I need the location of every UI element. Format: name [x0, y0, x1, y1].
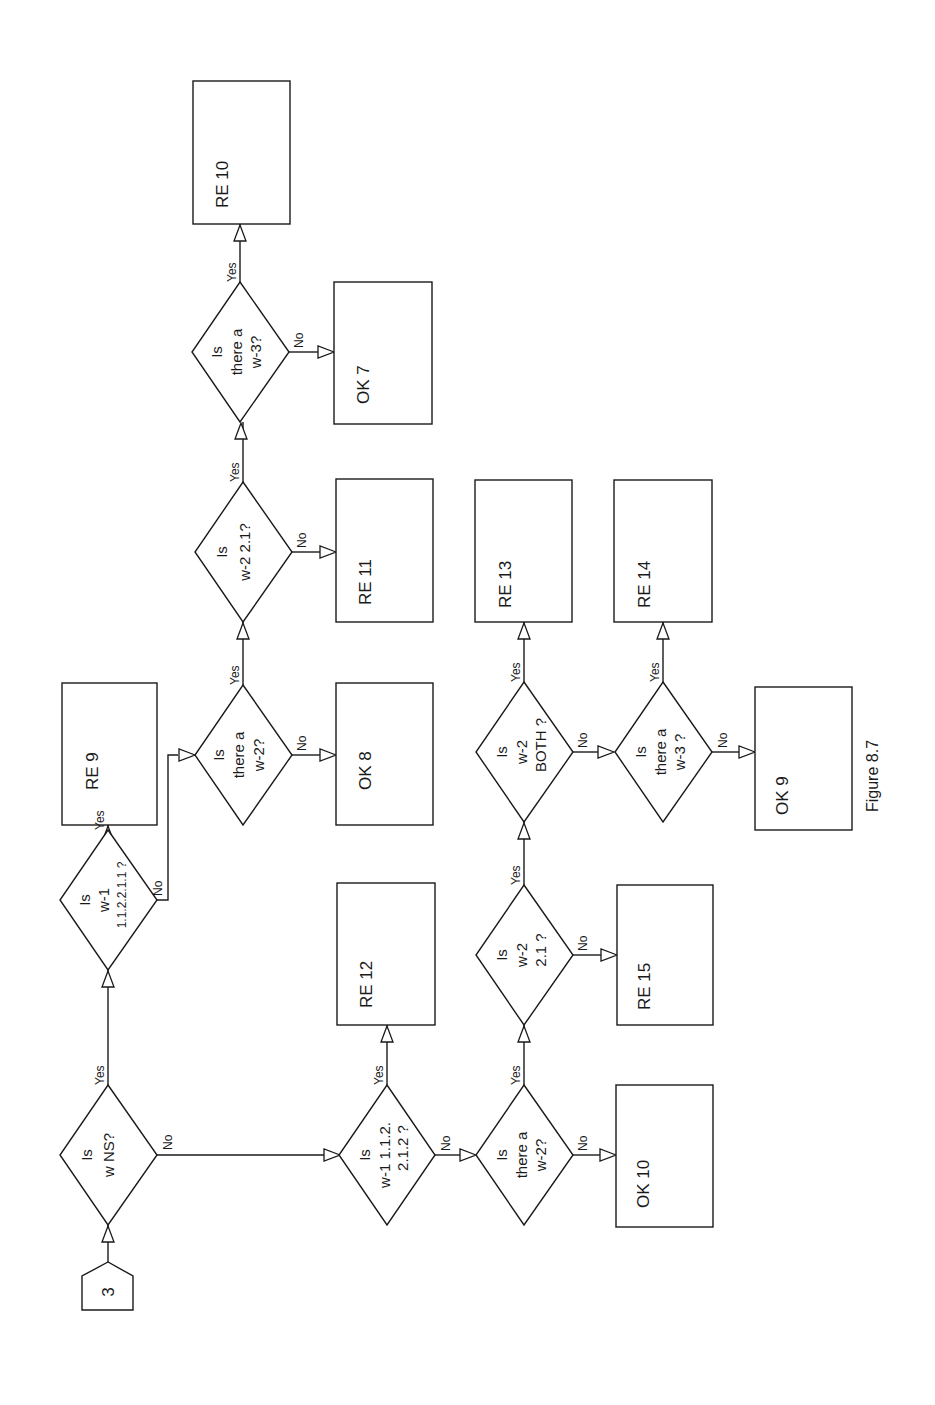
decision-there-a-w2-bottom: Is there a w-2?	[476, 1085, 573, 1225]
no-label: No	[576, 732, 590, 748]
svg-text:Is: Is	[76, 894, 93, 906]
svg-text:OK 9: OK 9	[773, 776, 792, 815]
svg-text:w-1 1.1.2.: w-1 1.1.2.	[376, 1122, 393, 1189]
svg-text:1.1.2.2.1.1 ?: 1.1.2.2.1.1 ?	[115, 861, 129, 928]
svg-text:OK 10: OK 10	[634, 1160, 653, 1208]
yes-label: Yes	[509, 662, 523, 682]
svg-text:2.1 ?: 2.1 ?	[532, 933, 549, 966]
svg-text:RE 14: RE 14	[635, 561, 654, 608]
svg-text:Is: Is	[213, 546, 230, 558]
svg-text:2.1.2 ?: 2.1.2 ?	[394, 1125, 411, 1171]
decision-w2-21-bottom: Is w-2 2.1 ?	[476, 885, 573, 1025]
svg-text:OK 7: OK 7	[354, 365, 373, 404]
flowchart: 3 Is w NS? Is w-1 1.1.2.2.1.1 ? Is there…	[0, 0, 935, 1405]
outcome-re-10: RE 10	[193, 81, 290, 224]
svg-text:there a: there a	[228, 328, 245, 375]
no-label: No	[295, 735, 309, 751]
yes-label: Yes	[225, 262, 239, 282]
yes-label: Yes	[648, 662, 662, 682]
outcome-re-11: RE 11	[336, 479, 433, 622]
decision-w-ns: Is w NS?	[60, 1085, 157, 1225]
svg-text:there a: there a	[513, 1131, 530, 1178]
yes-label: Yes	[93, 1065, 107, 1085]
svg-text:Is: Is	[210, 749, 227, 761]
svg-text:w-2?: w-2?	[250, 739, 267, 773]
outcome-re-14: RE 14	[614, 480, 712, 622]
svg-text:RE 15: RE 15	[635, 963, 654, 1010]
yes-label: Yes	[93, 810, 107, 830]
svg-text:w-2: w-2	[513, 943, 530, 968]
outcome-ok-7: OK 7	[334, 282, 432, 424]
svg-text:w-3?: w-3?	[247, 336, 264, 370]
svg-text:Is: Is	[356, 1149, 373, 1161]
decision-w2-both: Is w-2 BOTH ?	[476, 682, 573, 822]
decision-there-a-w3-top: Is there a w-3?	[192, 282, 289, 422]
svg-text:Is: Is	[78, 1149, 95, 1161]
no-label: No	[576, 1135, 590, 1151]
svg-text:Is: Is	[493, 949, 510, 961]
svg-text:w-3 ?: w-3 ?	[671, 734, 688, 772]
svg-text:RE 11: RE 11	[356, 559, 375, 605]
svg-text:BOTH ?: BOTH ?	[532, 718, 549, 772]
svg-text:RE 9: RE 9	[83, 752, 102, 790]
yes-label: Yes	[228, 462, 242, 482]
no-label: No	[292, 332, 306, 348]
yes-label: Yes	[228, 665, 242, 685]
no-label: No	[576, 935, 590, 951]
svg-text:there a: there a	[652, 728, 669, 775]
outcome-ok-8: OK 8	[336, 683, 433, 825]
svg-text:RE 10: RE 10	[213, 161, 232, 208]
outcome-ok-10: OK 10	[616, 1085, 713, 1227]
decision-w1-112212: Is w-1 1.1.2. 2.1.2 ?	[339, 1085, 435, 1225]
svg-text:RE 13: RE 13	[496, 561, 515, 608]
outcome-re-13: RE 13	[475, 480, 572, 622]
svg-text:Is: Is	[493, 1149, 510, 1161]
svg-text:w-2?: w-2?	[532, 1139, 549, 1173]
svg-text:RE 12: RE 12	[357, 961, 376, 1008]
outcome-re-9: RE 9	[62, 683, 157, 825]
no-label: No	[151, 880, 165, 896]
no-label: No	[295, 532, 309, 548]
start-label: 3	[99, 1287, 118, 1296]
svg-text:w NS?: w NS?	[100, 1133, 117, 1178]
svg-text:w-1: w-1	[95, 888, 112, 913]
decision-w1-112211: Is w-1 1.1.2.2.1.1 ?	[60, 830, 157, 970]
svg-text:Is: Is	[208, 346, 225, 358]
decision-w2-21-top: Is w-2 2.1?	[195, 482, 292, 622]
svg-text:OK 8: OK 8	[356, 751, 375, 790]
yes-label: Yes	[509, 1065, 523, 1085]
svg-text:there a: there a	[230, 731, 247, 778]
yes-label: Yes	[372, 1065, 386, 1085]
yes-label: Yes	[509, 865, 523, 885]
svg-text:w-2 2.1?: w-2 2.1?	[236, 523, 253, 582]
start-connector-3: 3	[82, 1262, 133, 1310]
no-label: No	[439, 1135, 453, 1151]
svg-text:w-2: w-2	[513, 740, 530, 765]
outcome-re-15: RE 15	[617, 885, 713, 1025]
outcome-re-12: RE 12	[337, 883, 435, 1025]
svg-text:Is: Is	[632, 746, 649, 758]
svg-text:Is: Is	[493, 746, 510, 758]
no-label: No	[716, 732, 730, 748]
decision-there-a-w2-top: Is there a w-2?	[195, 685, 292, 825]
figure-caption: Figure 8.7	[864, 740, 881, 812]
no-label: No	[161, 1134, 175, 1150]
decision-there-a-w3-bottom: Is there a w-3 ?	[615, 682, 712, 822]
outcome-ok-9: OK 9	[755, 687, 852, 830]
